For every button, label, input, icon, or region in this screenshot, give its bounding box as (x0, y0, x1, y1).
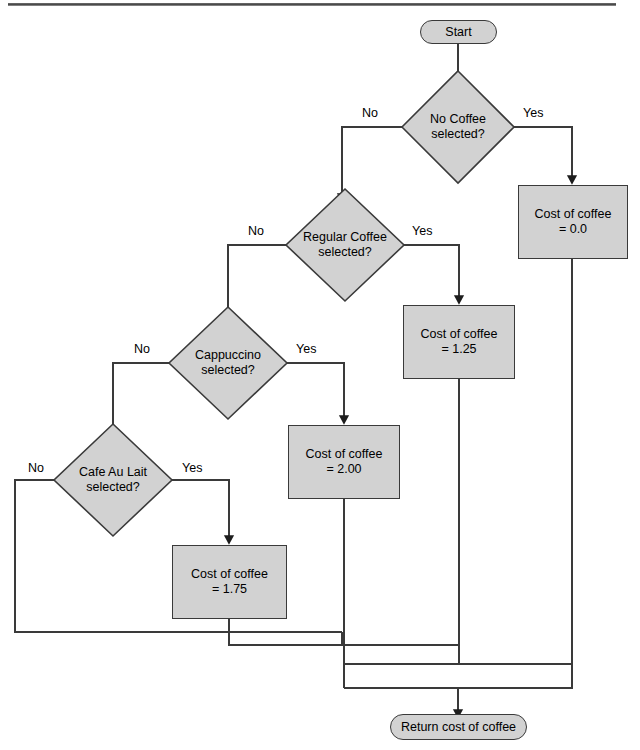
node-cost-175-line2: = 1.75 (212, 582, 247, 596)
edge-label-d1-no: No (362, 106, 378, 120)
node-cost-175-line1: Cost of coffee (191, 567, 268, 581)
decision-regular-coffee-shape (286, 189, 404, 301)
flowchart-canvas: No Coffee selected? Regular Coffee selec… (0, 0, 640, 750)
edge-label-d4-no: No (28, 461, 44, 475)
decision-cappuccino-shape (169, 307, 287, 419)
node-cost-125-text: Cost of coffee = 1.25 (421, 327, 498, 357)
node-cost-0[interactable]: Cost of coffee = 0.0 (518, 185, 628, 259)
edge-label-d1-yes: Yes (523, 106, 543, 120)
node-start-label: Start (445, 25, 471, 40)
node-cost-125-line2: = 1.25 (441, 342, 476, 356)
decision-no-coffee-shape (402, 71, 514, 183)
node-return-label: Return cost of coffee (401, 720, 516, 735)
node-return[interactable]: Return cost of coffee (390, 714, 527, 740)
edge-label-d3-no: No (134, 342, 150, 356)
node-start[interactable]: Start (420, 20, 497, 44)
node-cost-0-line2: = 0.0 (559, 222, 587, 236)
node-cost-200-line2: = 2.00 (326, 462, 361, 476)
edge-label-d2-no: No (248, 224, 264, 238)
node-cost-200-line1: Cost of coffee (306, 447, 383, 461)
edge-label-d3-yes: Yes (296, 342, 316, 356)
edge-label-d2-yes: Yes (412, 224, 432, 238)
decision-cafe-au-lait-shape (54, 424, 172, 536)
node-cost-0-text: Cost of coffee = 0.0 (535, 207, 612, 237)
node-cost-175[interactable]: Cost of coffee = 1.75 (172, 545, 287, 619)
node-cost-175-text: Cost of coffee = 1.75 (191, 567, 268, 597)
node-cost-200[interactable]: Cost of coffee = 2.00 (288, 425, 400, 499)
node-cost-125-line1: Cost of coffee (421, 327, 498, 341)
edge-label-d4-yes: Yes (182, 461, 202, 475)
node-cost-200-text: Cost of coffee = 2.00 (306, 447, 383, 477)
decision-layer (0, 0, 640, 750)
node-cost-0-line1: Cost of coffee (535, 207, 612, 221)
node-cost-125[interactable]: Cost of coffee = 1.25 (403, 305, 515, 379)
